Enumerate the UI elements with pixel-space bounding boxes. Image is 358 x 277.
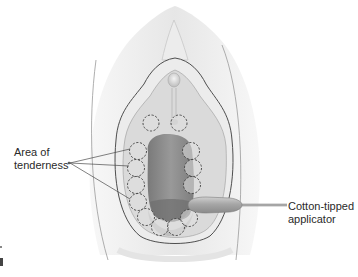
tenderness-label-line1: Area of [14, 146, 68, 159]
tenderness-label: Area of tenderness [14, 146, 68, 172]
applicator-label: Cotton-tipped applicator [288, 200, 354, 226]
applicator-label-line1: Cotton-tipped [288, 200, 354, 213]
anatomical-figure: Area of tenderness Cotton-tipped applica… [0, 0, 358, 277]
edge-mark [0, 258, 3, 266]
diagram-illustration [0, 0, 358, 277]
tenderness-label-line2: tenderness [14, 159, 68, 172]
applicator-label-line2: applicator [288, 213, 354, 226]
edge-mark-small [0, 246, 2, 248]
